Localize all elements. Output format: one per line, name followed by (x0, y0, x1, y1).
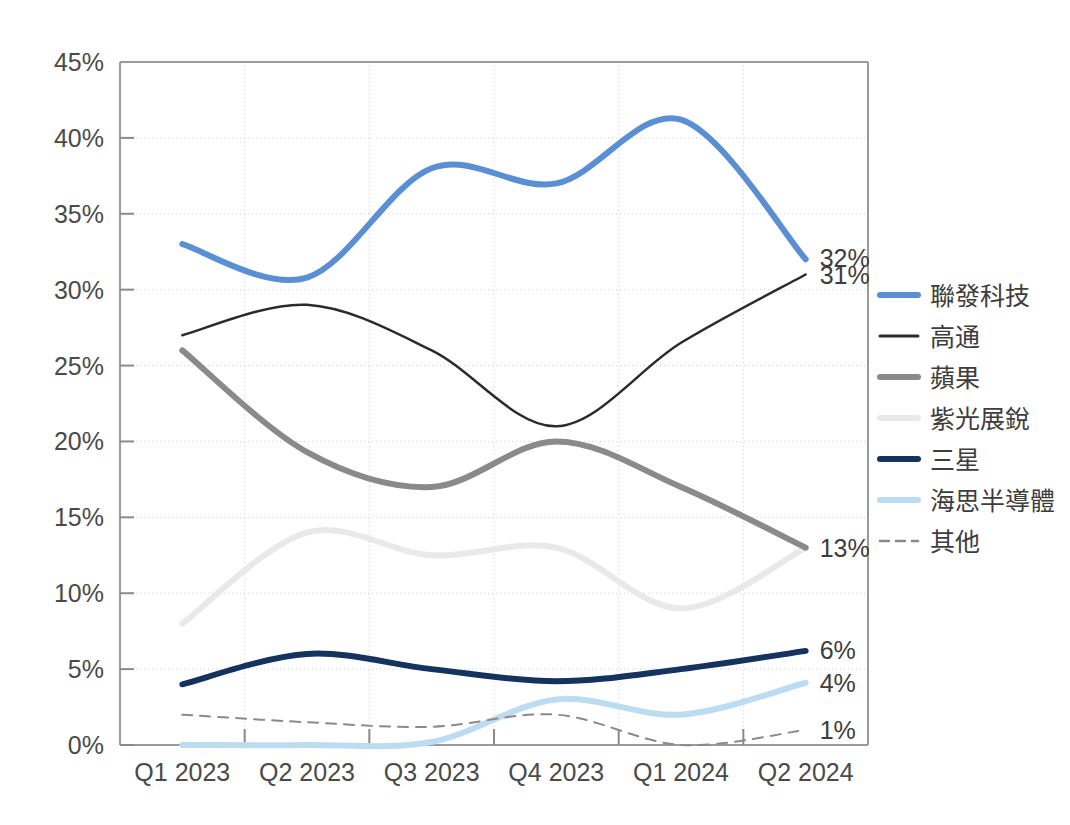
legend-item[interactable]: 三星 (880, 446, 980, 475)
x-axis-tick-label: Q1 2023 (134, 758, 230, 786)
x-axis-tick-labels: Q1 2023Q2 2023Q3 2023Q4 2023Q1 2024Q2 20… (134, 758, 853, 786)
x-axis-tick-label: Q2 2024 (758, 758, 854, 786)
y-axis-tick-label: 10% (54, 579, 104, 607)
y-axis-tick-label: 40% (54, 124, 104, 152)
series-end-value-label: 6% (820, 636, 856, 664)
series-end-value-label: 13% (820, 534, 870, 562)
x-axis-tick-label: Q2 2023 (259, 758, 355, 786)
legend-item-label: 三星 (930, 446, 980, 475)
series-line (182, 651, 805, 684)
y-axis-tick-label: 20% (54, 427, 104, 455)
legend-item[interactable]: 聯發科技 (880, 282, 1030, 311)
y-axis-tick-label: 30% (54, 276, 104, 304)
series-line (182, 530, 805, 624)
grid-layer (120, 62, 868, 745)
legend-item-label: 聯發科技 (930, 282, 1030, 311)
legend-item[interactable]: 海思半導體 (880, 487, 1055, 516)
x-axis-tick-label: Q1 2024 (633, 758, 729, 786)
y-axis-tick-label: 25% (54, 352, 104, 380)
y-axis-tick-labels: 0%5%10%15%20%25%30%35%40%45% (54, 48, 104, 759)
legend-item[interactable]: 其他 (880, 528, 980, 557)
legend-item-label: 其他 (930, 528, 980, 557)
series-end-value-label: 31% (820, 261, 870, 289)
legend-item[interactable]: 蘋果 (880, 364, 980, 393)
line-chart-plot: 0%5%10%15%20%25%30%35%40%45% Q1 2023Q2 2… (0, 0, 1070, 825)
legend-item-label: 高通 (930, 323, 980, 352)
y-axis-tick-label: 15% (54, 503, 104, 531)
x-axis-tick-label: Q3 2023 (384, 758, 480, 786)
x-axis-tick-label: Q4 2023 (508, 758, 604, 786)
legend-item-label: 紫光展銳 (930, 405, 1030, 434)
legend-item-label: 蘋果 (930, 364, 980, 393)
legend-item[interactable]: 紫光展銳 (880, 405, 1030, 434)
y-axis-tick-label: 5% (68, 655, 104, 683)
chart-legend: 聯發科技高通蘋果紫光展銳三星海思半導體其他 (880, 282, 1055, 557)
data-series-layer (182, 118, 805, 746)
y-axis-tick-label: 45% (54, 48, 104, 76)
series-end-value-label: 1% (820, 716, 856, 744)
series-end-value-label: 4% (820, 669, 856, 697)
legend-item-label: 海思半導體 (930, 487, 1055, 516)
y-axis-tick-label: 0% (68, 731, 104, 759)
legend-item[interactable]: 高通 (880, 323, 980, 352)
chart-container: 0%5%10%15%20%25%30%35%40%45% Q1 2023Q2 2… (0, 0, 1070, 825)
y-axis-tick-label: 35% (54, 200, 104, 228)
series-end-labels: 32%31%13%6%4%1% (820, 244, 870, 744)
